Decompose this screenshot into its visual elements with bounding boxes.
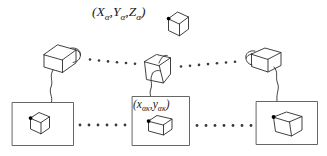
world-label-close-paren: ) (141, 4, 146, 19)
image-frame-right (257, 102, 318, 145)
dots-frame-middle-to-right (196, 124, 253, 127)
cable-right (274, 67, 278, 101)
diagram-canvas (0, 0, 327, 156)
cable-left (50, 70, 53, 103)
dots-camera-left-to-middle (89, 58, 137, 65)
camera-right (246, 48, 281, 72)
camera-left (44, 45, 81, 73)
image-frame-left (13, 103, 74, 146)
image-label-y-sub: ακ (158, 104, 166, 113)
image-label-x-sub: ακ (142, 104, 150, 113)
target-cube (169, 12, 189, 36)
image-label-close-paren: ) (166, 98, 170, 110)
world-label-x: X (97, 4, 105, 19)
cube-view-middle-marker-dot (147, 119, 151, 123)
image-coordinate-label: (xακ,yακ) (133, 99, 170, 113)
dots-frame-left-to-middle (79, 124, 127, 127)
cube-view-right-marker-dot (272, 115, 276, 119)
world-coordinate-label: (Xα,Yα,Zα) (92, 5, 146, 22)
target-cube-marker-dot (167, 17, 171, 21)
cube-view-left-marker-dot (29, 116, 33, 120)
dots-camera-middle-to-right (180, 60, 237, 67)
camera-middle (145, 55, 171, 84)
photogrammetry-diagram: (Xα,Yα,Zα) (xακ,yακ) (0, 0, 327, 156)
